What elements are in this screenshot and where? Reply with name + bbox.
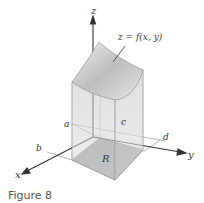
y-arrow-icon <box>177 149 186 155</box>
bound-d-label: d <box>163 132 169 142</box>
bound-b-label: b <box>36 143 42 153</box>
x-axis-label: x <box>15 169 21 180</box>
bound-a-label: a <box>64 119 69 129</box>
figure-diagram: z x y z = f(x, y) a b c d R Figure 8 <box>0 0 204 203</box>
figure-caption: Figure 8 <box>8 189 52 202</box>
y-axis-label: y <box>187 149 194 160</box>
region-label: R <box>101 153 110 164</box>
z-axis-label: z <box>90 5 97 16</box>
z-arrow-icon <box>91 16 96 24</box>
x-arrow-icon <box>22 168 30 174</box>
bound-c-label: c <box>121 117 126 127</box>
surface-label: z = f(x, y) <box>117 32 163 42</box>
